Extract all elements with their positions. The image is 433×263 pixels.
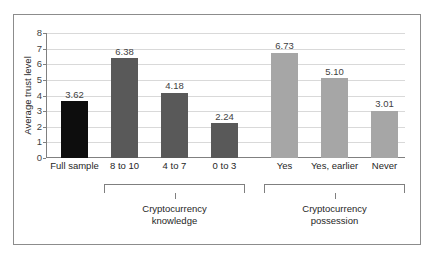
x-label-full-sample: Full sample [50, 161, 99, 171]
bar-value-label: 4.18 [165, 81, 184, 91]
gridline-7 [46, 49, 405, 50]
x-label-never: Never [372, 161, 397, 171]
group-label-possession-line1: Cryptocurrency [302, 203, 366, 215]
y-tick-mark-0 [43, 158, 46, 159]
y-tick-label-4: 4 [37, 91, 42, 101]
y-axis-title-text: Average trust level [22, 56, 33, 135]
bar-yes-earlier[interactable]: 5.10 [321, 78, 348, 158]
gridline-6 [46, 64, 405, 65]
y-axis-line [46, 33, 47, 158]
bar-8-to-10[interactable]: 6.38 [111, 58, 138, 158]
x-label-8-to-10: 8 to 10 [110, 161, 139, 171]
x-label-yes-earlier: Yes, earlier [311, 161, 358, 171]
y-tick-mark-2 [43, 127, 46, 128]
bar-0-to-3[interactable]: 2.24 [211, 123, 238, 158]
bar-value-label: 3.01 [375, 99, 394, 109]
y-tick-label-5: 5 [37, 75, 42, 85]
y-tick-mark-8 [43, 33, 46, 34]
bar-full-sample[interactable]: 3.62 [61, 101, 88, 158]
y-tick-mark-7 [43, 49, 46, 50]
y-tick-label-8: 8 [37, 28, 42, 38]
group-label-possession-line2: possession [302, 215, 366, 227]
y-tick-label-6: 6 [37, 60, 42, 70]
bar-never[interactable]: 3.01 [371, 111, 398, 158]
group-label-knowledge: Cryptocurrency knowledge [142, 203, 206, 226]
y-tick-mark-4 [43, 96, 46, 97]
bar-value-label: 6.38 [115, 47, 134, 57]
group-bracket-knowledge [104, 184, 245, 193]
group-label-knowledge-line2: knowledge [142, 215, 206, 227]
y-tick-mark-5 [43, 80, 46, 81]
group-bracket-possession [264, 184, 405, 193]
y-tick-mark-6 [43, 64, 46, 65]
x-label-4-to-7: 4 to 7 [163, 161, 187, 171]
bar-value-label: 5.10 [325, 67, 344, 77]
group-bracket-stem-knowledge [175, 193, 176, 199]
bar-value-label: 6.73 [275, 41, 294, 51]
x-label-yes: Yes [277, 161, 293, 171]
plot-area: 8 7 6 5 4 3 2 1 0 3.62 6.38 4.18 2.24 6.… [46, 33, 405, 158]
chart-figure: Average trust level 8 7 6 5 4 3 2 1 0 [0, 0, 433, 263]
gridline-4 [46, 96, 405, 97]
group-label-knowledge-line1: Cryptocurrency [142, 203, 206, 215]
bar-yes[interactable]: 6.73 [271, 53, 298, 158]
y-tick-label-7: 7 [37, 44, 42, 54]
x-label-0-to-3: 0 to 3 [213, 161, 237, 171]
gridline-5 [46, 80, 405, 81]
group-bracket-stem-possession [335, 193, 336, 199]
group-label-possession: Cryptocurrency possession [302, 203, 366, 226]
y-tick-label-3: 3 [37, 106, 42, 116]
y-tick-label-2: 2 [37, 122, 42, 132]
y-tick-mark-3 [43, 111, 46, 112]
gridline-8 [46, 33, 405, 34]
bar-value-label: 3.62 [65, 90, 84, 100]
bar-value-label: 2.24 [215, 112, 234, 122]
y-tick-mark-1 [43, 142, 46, 143]
y-tick-label-0: 0 [37, 153, 42, 163]
y-axis-title: Average trust level [20, 33, 34, 158]
bar-4-to-7[interactable]: 4.18 [161, 93, 188, 158]
y-tick-label-1: 1 [37, 138, 42, 148]
